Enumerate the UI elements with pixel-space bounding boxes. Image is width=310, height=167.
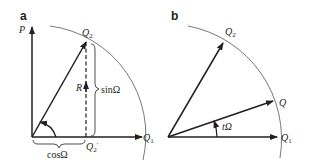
q1-label: Q1 bbox=[143, 132, 154, 145]
sin-brace bbox=[91, 44, 99, 136]
q-vector-arrow bbox=[168, 101, 273, 137]
panel-b-label: b bbox=[171, 9, 178, 23]
unit-circle-arc bbox=[50, 26, 146, 160]
p-axis-label: P bbox=[18, 24, 25, 35]
q-label: Q bbox=[279, 97, 287, 108]
cos-brace bbox=[33, 140, 85, 148]
r-label: R bbox=[75, 82, 82, 93]
sin-omega-label: sinΩ bbox=[101, 84, 120, 95]
q2-prime-label: Q2′ bbox=[86, 141, 99, 154]
angle-arc-icon bbox=[214, 121, 217, 137]
q1-label: Q1 bbox=[281, 132, 292, 145]
panel-a-label: a bbox=[20, 9, 27, 23]
panel-a: a P Q1 Q2 R sinΩ cosΩ Q2′ bbox=[18, 9, 154, 160]
t-omega-label: tΩ bbox=[222, 121, 232, 132]
q2-label: Q2 bbox=[225, 26, 236, 39]
angle-arc-icon bbox=[40, 122, 56, 137]
panel-b: b Q2 Q Q1 tΩ bbox=[168, 9, 292, 158]
diagram-canvas: a P Q1 Q2 R sinΩ cosΩ Q2′ b bbox=[0, 0, 310, 167]
unit-circle-arc bbox=[188, 26, 282, 158]
cos-omega-label: cosΩ bbox=[47, 149, 68, 160]
